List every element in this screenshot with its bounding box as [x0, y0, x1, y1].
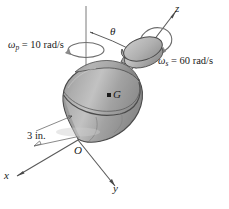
x-axis-line: [17, 140, 78, 176]
y-axis-label: y: [113, 183, 118, 194]
center-of-mass-marker: [107, 93, 111, 97]
origin-label: O: [74, 145, 82, 156]
omega-s-value: = 60 rad/s: [171, 55, 213, 66]
center-of-mass-label: G: [113, 89, 121, 100]
spin-rate-label: ωs = 60 rad/s: [158, 56, 213, 68]
dimension-label-3in: 3 in.: [27, 131, 46, 142]
theta-label: θ: [110, 26, 115, 37]
precession-rate-label: ωp = 10 rad/s: [8, 40, 64, 52]
z-axis-label: z: [175, 3, 179, 14]
omega-s-subscript: s: [165, 59, 168, 68]
spinning-top-figure: ωp = 10 rad/s ωs = 60 rad/s θ 3 in. O G …: [0, 0, 229, 209]
y-axis-line: [78, 140, 115, 186]
ground-shadow: [56, 128, 100, 137]
x-axis-label: x: [4, 170, 9, 181]
precession-arrow-icon: [66, 42, 105, 57]
omega-p-subscript: p: [15, 43, 19, 52]
omega-p-value: = 10 rad/s: [22, 39, 64, 50]
